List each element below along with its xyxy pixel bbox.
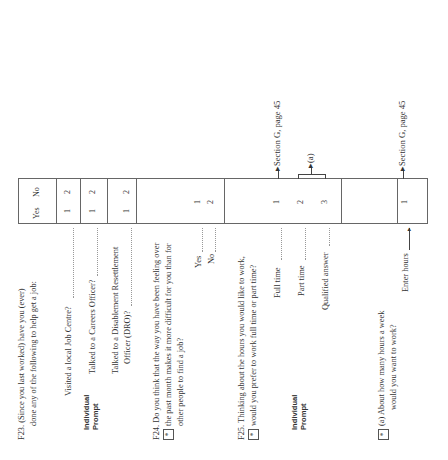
route-arrow [278,171,279,179]
leader-dots [131,228,132,306]
header-no: No [32,187,41,197]
code-f24-no[interactable]: 2 [206,200,215,204]
f25-option-part-time: Part time [296,266,307,296]
route-label: Section G, page 45 [397,101,407,166]
f25a-star-box: * [378,429,389,440]
row-divider [397,179,398,224]
asterisk-icon: * [248,429,259,440]
route-label: (a) [305,153,315,163]
leader-dots [329,228,330,246]
f24-number: F24. [152,425,161,440]
questionnaire-page: F23. (Since you last worked) have you (e… [0,0,448,460]
leader-dots [97,228,98,276]
route-arrow [403,171,404,179]
f24-option-no: No [206,254,217,264]
f25-option-qualified: Qualified answer [320,253,331,310]
code-no[interactable]: 2 [88,190,97,194]
code-yes[interactable]: 1 [63,209,72,213]
f24-question: F24. Do you think that the way you have … [151,243,162,440]
prompt-line2: Prompt [91,395,100,430]
row-divider [341,179,342,224]
f24-text-line1: Do you think that the way you have been … [152,243,161,423]
arrow-to-box [409,228,410,250]
f23-text-line1: (Since you last worked) have you (ever) [17,288,26,422]
f23-item-dro-line1: Talked to a Disablement Resettlement [110,247,121,374]
route-qualified: ▸(a) [305,153,315,168]
f25-number: F25. [237,425,246,440]
code-yes[interactable]: 1 [122,209,131,213]
f23-question: F23. (Since you last worked) have you (e… [16,288,27,440]
prompt-line1: Individual [290,395,299,430]
f25-question: F25. Thinking about the hours you would … [236,256,247,440]
leader-dots [73,228,74,298]
f24-star-box: * [163,429,174,440]
f25a-letter: (a) [377,417,386,426]
f25-option-full-time: Full time [272,268,283,298]
header-yes: Yes [32,207,41,219]
f23-item-job-centre: Visited a local Job Centre? [63,306,74,396]
f23-number: F23. [17,425,26,440]
row-divider [80,179,81,224]
code-f25a-hours[interactable]: 1 [400,200,409,204]
route-arrow [311,167,312,175]
asterisk-icon: * [163,429,174,440]
f25a-enter-hours-label: Enter hours [400,253,411,292]
prompt-line2: Prompt [299,395,308,430]
f23-item-dro-line2: Officer (DRO)? [122,311,133,364]
code-f25-qualified[interactable]: 3 [320,200,329,204]
route-label: Section G, page 45 [272,101,282,166]
f23-item-careers-officer: Talked to a Careers Officer? [87,279,98,374]
leader-dots [202,228,203,252]
row-divider [56,179,57,224]
leader-dots [305,228,306,260]
row-divider [224,179,225,224]
arrow-head-icon: ▸ [405,227,413,231]
f23-text-line2: done any of the following to help get a … [28,281,39,426]
f23-prompt: Individual Prompt [82,395,100,430]
leader-dots [281,228,282,260]
row-divider [107,179,108,224]
route-f25a: ▸Section G, page 45 [397,101,407,171]
f24-text-line3: other people to find a job? [175,338,186,426]
f25a-text-line2: would you want to work? [388,324,399,410]
f25-prompt: Individual Prompt [290,395,308,430]
code-yes[interactable]: 1 [88,209,97,213]
f25-text-line2: would you prefer to work full time or pa… [248,265,259,426]
f25-text-line1: Thinking about the hours you would like … [237,256,246,423]
code-f24-yes[interactable]: 1 [193,200,202,204]
prompt-line1: Individual [82,395,91,430]
code-no[interactable]: 2 [63,190,72,194]
f25a-text-line1: About how many hours a week [377,311,386,415]
row-divider [136,179,137,224]
leader-dots [215,228,216,252]
f24-option-yes: Yes [193,256,204,268]
code-no[interactable]: 2 [122,190,131,194]
f25-star-box: * [248,429,259,440]
code-f25-part-time[interactable]: 2 [296,200,305,204]
asterisk-icon: * [378,429,389,440]
f24-text-line2: the past month makes it more difficult f… [163,243,174,426]
route-full-time: ▸Section G, page 45 [272,101,282,171]
code-f25-full-time[interactable]: 1 [272,200,281,204]
route-bracket [298,174,326,179]
f25a-question: (a) About how many hours a week [376,311,387,426]
